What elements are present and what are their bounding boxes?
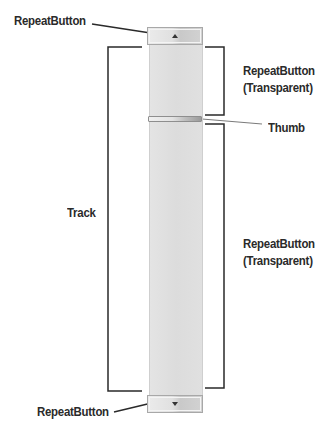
thumb[interactable] [148,116,202,122]
arrow-down-icon [172,402,178,406]
label-lower-track-button: RepeatButton [243,236,315,252]
arrow-up-icon [172,34,178,38]
track[interactable] [149,45,203,395]
label-bottom-repeat-button: RepeatButton [37,404,109,420]
label-upper-track-button: RepeatButton [243,63,315,79]
top-repeat-button[interactable] [147,27,203,45]
label-thumb: Thumb [268,120,305,136]
bottom-repeat-button[interactable] [147,395,203,413]
scrollbar[interactable] [147,27,203,413]
label-upper-track-button-sub: (Transparent) [243,80,313,96]
label-top-repeat-button: RepeatButton [14,13,86,29]
label-lower-track-button-sub: (Transparent) [243,253,313,269]
label-track: Track [67,205,96,221]
